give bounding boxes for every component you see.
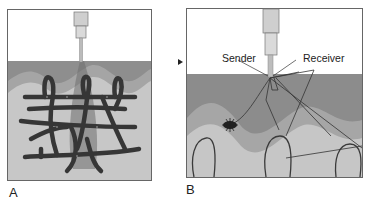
panel-b-label: B	[186, 182, 195, 197]
panel-b	[186, 8, 363, 178]
panel-a-label: A	[9, 185, 18, 200]
panel-a-illustration	[7, 9, 152, 181]
sender-callout: Sender	[222, 52, 256, 64]
panel-a	[7, 9, 152, 181]
panel-b-illustration	[186, 8, 363, 178]
arrowhead-icon	[178, 59, 183, 65]
receiver-callout: Receiver	[303, 52, 344, 64]
